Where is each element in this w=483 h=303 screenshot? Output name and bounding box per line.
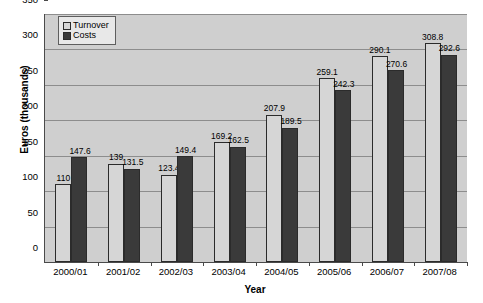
- legend-swatch-icon: [63, 22, 71, 30]
- x-tick-label: 2007/08: [414, 266, 466, 277]
- bar-value-label: 259.1: [315, 68, 339, 77]
- bar-value-label: 290.1: [368, 46, 392, 55]
- bar-group: 169.2162.5: [214, 14, 246, 262]
- x-tick-label: 2000/01: [44, 266, 96, 277]
- bar-turnover: [372, 56, 388, 262]
- bar-group: 259.1242.3: [319, 14, 351, 262]
- bar-costs: [71, 157, 87, 262]
- y-tick-label: 50: [12, 208, 38, 218]
- legend: TurnoverCosts: [58, 16, 116, 45]
- y-tick-label: 250: [12, 66, 38, 76]
- bar-turnover: [161, 175, 177, 262]
- bar-value-label: 207.9: [262, 104, 286, 113]
- bar-value-label: 242.3: [333, 80, 363, 89]
- legend-label: Costs: [73, 31, 96, 40]
- legend-item: Turnover: [63, 21, 109, 30]
- bar-value-label: 149.4: [175, 146, 205, 155]
- x-tick-label: 2006/07: [361, 266, 413, 277]
- x-tick-label: 2001/02: [97, 266, 149, 277]
- y-tick-label: 150: [12, 137, 38, 147]
- bar-value-label: 308.8: [421, 33, 445, 42]
- bar-costs: [230, 147, 246, 262]
- bar-turnover: [55, 184, 71, 262]
- bar-chart: Euros (thousands) 050100150200250300350 …: [0, 0, 483, 303]
- bar-costs: [124, 169, 140, 262]
- bar-turnover: [108, 164, 124, 262]
- y-tick-label: 0: [12, 243, 38, 253]
- y-tick-label: 300: [12, 30, 38, 40]
- bar-group: 290.1270.6: [372, 14, 404, 262]
- x-tick-mark: [467, 262, 468, 266]
- bar-group: 110147.6: [55, 14, 87, 262]
- bar-costs: [388, 70, 404, 262]
- x-tick-label: 2004/05: [255, 266, 307, 277]
- bar-group: 308.8292.6: [425, 14, 457, 262]
- legend-item: Costs: [63, 31, 109, 40]
- bar-costs: [282, 128, 298, 262]
- legend-swatch-icon: [63, 32, 71, 40]
- x-tick-label: 2003/04: [203, 266, 255, 277]
- y-tick-label: 350: [12, 0, 38, 5]
- bar-costs: [177, 156, 193, 262]
- x-axis-title: Year: [44, 284, 466, 295]
- bar-group: 207.9189.5: [266, 14, 298, 262]
- bar-group: 139131.5: [108, 14, 140, 262]
- bar-costs: [335, 90, 351, 262]
- bar-turnover: [319, 78, 335, 262]
- bar-value-label: 270.6: [386, 60, 416, 69]
- plot-area: 110147.6139131.5123.4149.4169.2162.5207.…: [44, 14, 467, 263]
- bar-value-label: 162.5: [228, 136, 258, 145]
- bar-value-label: 131.5: [122, 158, 152, 167]
- x-tick-label: 2002/03: [150, 266, 202, 277]
- y-tick-label: 200: [12, 101, 38, 111]
- y-tick-mark: [44, 0, 48, 1]
- bar-group: 123.4149.4: [161, 14, 193, 262]
- bar-value-label: 189.5: [280, 117, 310, 126]
- bar-value-label: 292.6: [439, 44, 469, 53]
- x-tick-label: 2005/06: [308, 266, 360, 277]
- bar-turnover: [266, 115, 282, 262]
- bar-costs: [441, 55, 457, 262]
- legend-label: Turnover: [73, 21, 109, 30]
- y-axis-tick-labels: 050100150200250300350: [8, 0, 38, 248]
- y-tick-label: 100: [12, 172, 38, 182]
- bar-value-label: 147.6: [69, 147, 99, 156]
- bar-turnover: [214, 142, 230, 262]
- bar-turnover: [425, 43, 441, 262]
